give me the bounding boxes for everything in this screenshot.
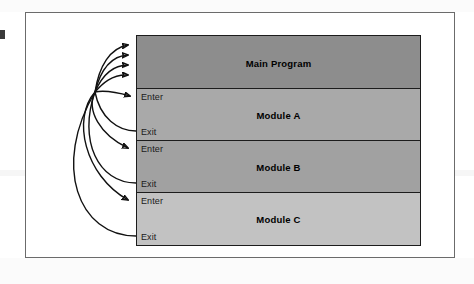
module-c-enter-label: Enter (141, 196, 163, 206)
box-module-c[interactable]: Enter Module C Exit (136, 192, 421, 246)
page-edge-mark (0, 30, 5, 39)
box-module-b[interactable]: Enter Module B Exit (136, 140, 421, 193)
module-a-enter-label: Enter (141, 92, 163, 102)
box-module-a-label: Module A (137, 110, 420, 121)
diagram-page: Main Program Enter Module A Exit Enter M… (0, 0, 474, 284)
box-module-c-label: Module C (137, 214, 420, 225)
box-module-b-label: Module B (137, 162, 420, 173)
box-main-program[interactable]: Main Program (136, 35, 421, 89)
scan-band-top (0, 0, 474, 12)
module-stack: Main Program Enter Module A Exit Enter M… (136, 35, 421, 246)
module-b-enter-label: Enter (141, 144, 163, 154)
scan-band-bottom (0, 258, 474, 284)
box-module-a[interactable]: Enter Module A Exit (136, 88, 421, 141)
module-c-exit-label: Exit (141, 232, 156, 242)
module-b-exit-label: Exit (141, 179, 156, 189)
box-main-program-label: Main Program (137, 58, 420, 69)
module-a-exit-label: Exit (141, 127, 156, 137)
